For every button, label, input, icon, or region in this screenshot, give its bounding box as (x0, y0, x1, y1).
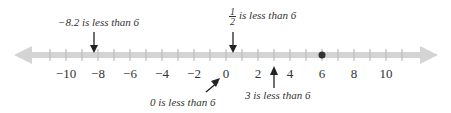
tick-label: −10 (56, 66, 76, 82)
left-arrow-icon (14, 46, 32, 64)
tick-label: 4 (287, 66, 294, 82)
tick-label: 0 (223, 66, 230, 82)
fraction-one-half: 1 2 (229, 7, 236, 26)
right-arrow-icon (420, 46, 438, 64)
annotation-half-text: is less than 6 (239, 9, 296, 21)
arrow-half-icon (229, 32, 237, 53)
tick-label: −8 (91, 66, 105, 82)
number-line-diagram: −10−8−6−4−20246810 −8.2 is less than 6 1… (0, 0, 451, 113)
tick-label: 2 (255, 66, 262, 82)
annotation-zero-text: 0 is less than 6 (150, 96, 215, 108)
arrow-zero-icon (206, 78, 220, 92)
annotation-zero: 0 is less than 6 (150, 96, 215, 108)
arrow-three-icon (270, 66, 278, 88)
annotation-neg8-2: −8.2 is less than 6 (58, 16, 139, 28)
tick-label: −4 (155, 66, 169, 82)
annotation-half: 1 2 is less than 6 (229, 7, 296, 26)
annotation-three-text: 3 is less than 6 (245, 89, 310, 101)
annotation-three: 3 is less than 6 (245, 89, 310, 101)
tick-label: 10 (380, 66, 393, 82)
tick-label: 6 (319, 66, 326, 82)
annotation-neg8-2-text: −8.2 is less than 6 (58, 16, 139, 28)
arrow-neg8-2-icon (90, 32, 98, 53)
tick-label: 8 (351, 66, 358, 82)
point-marker-6 (319, 52, 326, 59)
tick-label: −6 (123, 66, 137, 82)
tick-label: −2 (187, 66, 201, 82)
